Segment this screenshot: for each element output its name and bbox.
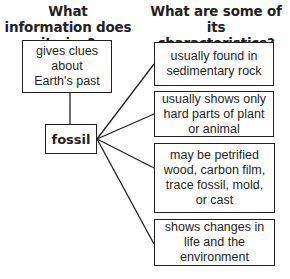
- info-box: gives clues about Earth's past: [22, 40, 112, 93]
- characteristic-box-1: usually found in sedimentary rock: [154, 42, 274, 86]
- fossil-node: fossil: [45, 124, 97, 154]
- characteristic-box-4: shows changes in life and the environmen…: [154, 219, 275, 266]
- characteristic-box-3: may be petrified wood, carbon film, trac…: [154, 143, 275, 213]
- characteristic-box-2: usually shows only hard parts of plant o…: [154, 91, 274, 137]
